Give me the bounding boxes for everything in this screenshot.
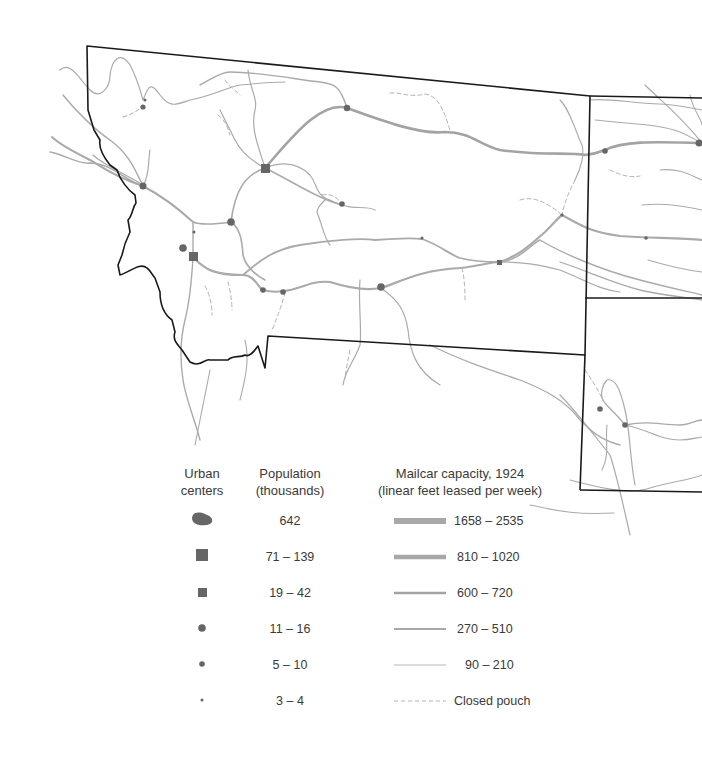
route-vertical-3 — [381, 288, 440, 385]
route-central-1 — [193, 222, 265, 280]
city-medium-dot — [260, 287, 266, 293]
capacity-label: 810 – 1020 — [457, 550, 520, 564]
route-south-border-x — [430, 345, 620, 445]
route-hub-branch — [317, 200, 330, 245]
route-border-ne-v — [560, 100, 583, 180]
route-central-east — [562, 215, 702, 240]
city-large-dot — [227, 218, 235, 226]
city-large-square — [261, 164, 270, 173]
route-central-2 — [193, 215, 562, 292]
route-spokane-branch — [123, 107, 143, 117]
large-square-icon — [196, 549, 208, 561]
route-ne-2 — [595, 120, 702, 143]
route-e-3 — [648, 260, 702, 272]
border-montana — [87, 46, 590, 368]
route-sd-3 — [625, 425, 702, 440]
city-large-dot — [377, 283, 385, 291]
route-hub-sw — [231, 168, 265, 222]
urban-area-icon — [192, 513, 212, 526]
route-hub-east — [265, 164, 375, 210]
city-small-dot — [144, 99, 147, 102]
city-medium-dot — [339, 201, 345, 207]
route-hub-north — [248, 70, 265, 168]
population-label: 11 – 16 — [270, 622, 311, 636]
legend-urban-header-2: centers — [181, 483, 224, 498]
population-label: 5 – 10 — [273, 658, 308, 672]
city-small-dot — [644, 236, 648, 240]
route-e-1 — [660, 170, 702, 180]
route-south-sw2 — [240, 340, 247, 400]
city-medium-dot — [597, 406, 603, 412]
capacity-label: Closed pouch — [454, 694, 530, 708]
mail-routes — [50, 58, 702, 535]
population-label: 19 – 42 — [269, 586, 311, 600]
route-e-2 — [642, 204, 702, 210]
medium-dot-icon — [199, 661, 205, 667]
route-sd-5 — [570, 475, 702, 491]
legend-mailcar-header-1: Mailcar capacity, 1924 — [396, 466, 524, 481]
legend: Urban centers Population (thousands) Mai… — [181, 466, 542, 708]
city-large-dot — [344, 105, 350, 111]
route-central-3 — [243, 238, 500, 275]
city-medium-dot — [622, 422, 628, 428]
city-small-dot — [560, 213, 563, 216]
city-medium-dot — [140, 104, 145, 109]
capacity-label: 1658 – 2535 — [454, 514, 524, 528]
route-map: Urban centers Population (thousands) Mai… — [0, 0, 702, 759]
city-small-dot — [193, 231, 196, 234]
cities — [140, 99, 702, 428]
route-ne-1 — [590, 100, 702, 110]
large-dot-icon — [198, 624, 206, 632]
capacity-label: 270 – 510 — [457, 622, 513, 636]
population-label: 3 – 4 — [276, 694, 304, 708]
legend-population-header-1: Population — [259, 466, 320, 481]
route-north-loop — [60, 58, 285, 105]
route-sd-6 — [530, 505, 614, 513]
route-vertical-2 — [343, 280, 361, 385]
route-south-east — [500, 240, 702, 295]
city-medium-dot — [602, 148, 608, 154]
state-borders — [87, 46, 702, 492]
city-large-dot — [140, 183, 147, 190]
legend-population-header-2: (thousands) — [256, 483, 325, 498]
border-sd-wy — [580, 490, 702, 492]
route-west-1 — [63, 95, 143, 186]
legend-mailcar-header-2: (linear feet leased per week) — [378, 483, 542, 498]
border-dakota-west — [590, 96, 702, 98]
route-hub-nw — [220, 110, 265, 168]
small-dot-icon — [201, 699, 204, 702]
route-sd-2 — [603, 400, 702, 425]
route-hub-se — [265, 168, 342, 205]
route-se-bottom — [560, 262, 702, 300]
capacity-label: 600 – 720 — [457, 586, 513, 600]
route-ne-3 — [645, 85, 702, 143]
city-large-square — [189, 252, 198, 261]
route-south-sw — [195, 370, 210, 445]
capacity-label: 90 – 210 — [465, 658, 514, 672]
route-sd-7 — [560, 395, 630, 535]
city-small-dot — [421, 237, 424, 240]
population-label: 71 – 139 — [266, 550, 315, 564]
population-label: 642 — [280, 514, 301, 528]
small-square-icon — [198, 588, 207, 597]
city-small-square — [497, 260, 502, 265]
city-large-dot — [179, 244, 187, 252]
city-medium-dot — [280, 289, 286, 295]
route-northern-main — [265, 107, 702, 168]
legend-urban-header-1: Urban — [184, 466, 219, 481]
route-west-2 — [52, 137, 193, 222]
